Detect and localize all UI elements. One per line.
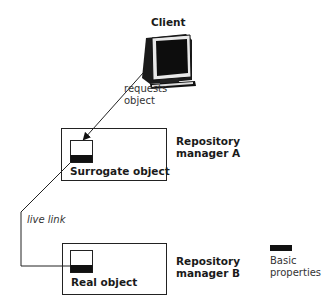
legend-label-line1: Basic (270, 255, 296, 267)
manager-b-label-line2: manager B (176, 267, 240, 279)
surrogate-object-icon (71, 141, 93, 163)
manager-a-label-line2: manager A (176, 147, 240, 159)
real-object-label: Real object (71, 276, 137, 288)
surrogate-object-label: Surrogate object (70, 165, 170, 177)
manager-a-label-line1: Repository (176, 135, 240, 147)
client-label: Client (151, 16, 186, 28)
real-object-icon (71, 251, 93, 273)
live-link-label: live link (27, 214, 66, 226)
request-label-line1: requests (124, 83, 167, 95)
computer-monitor-icon (142, 34, 196, 89)
manager-b-label-line1: Repository (176, 255, 240, 267)
legend-label-line2: properties (270, 267, 321, 279)
legend-swatch (270, 245, 292, 251)
request-label-line2: object (124, 95, 155, 107)
